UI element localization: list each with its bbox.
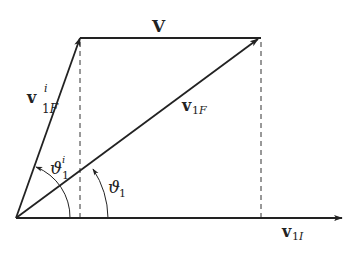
- label-v1F-sub: 1F: [192, 104, 207, 117]
- angle-arc-theta1: [93, 169, 108, 218]
- label-v1F-initial-sup: i: [44, 82, 48, 95]
- label-theta1-initial-sub: 1: [62, 169, 69, 182]
- vector-v1F-initial: [16, 38, 80, 218]
- label-v1F: v: [181, 96, 192, 115]
- label-v1F-initial: v: [26, 88, 37, 107]
- sub-I: I: [298, 230, 304, 243]
- vector-v1F: [16, 39, 258, 218]
- label-theta1-sub: 1: [119, 187, 126, 200]
- vector-diagram: V v i 1F v 1F v 1I ϑ i 1 ϑ 1: [0, 0, 352, 255]
- label-V: V: [151, 16, 166, 36]
- sub-F: F: [198, 104, 207, 117]
- sub-1: 1: [192, 104, 199, 117]
- label-v1I: v: [281, 222, 292, 241]
- sub-1: 1: [292, 230, 299, 243]
- sub-1: 1: [42, 102, 50, 116]
- label-theta1-initial: ϑ: [50, 158, 62, 178]
- label-v1I-sub: 1I: [292, 230, 304, 243]
- label-v1F-initial-sub: 1F: [42, 102, 59, 116]
- sub-F: F: [49, 102, 59, 116]
- label-theta1-initial-sup: i: [62, 154, 65, 165]
